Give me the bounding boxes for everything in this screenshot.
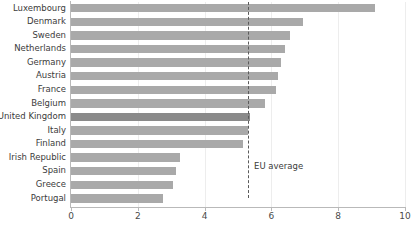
bar-finland	[71, 140, 243, 148]
category-label-denmark: Denmark	[0, 15, 66, 29]
eu-average-label: EU average	[254, 161, 303, 171]
bar-row: Greece	[0, 178, 420, 192]
x-tick-label-6: 6	[269, 211, 275, 222]
category-label-netherlands: Netherlands	[0, 42, 66, 56]
category-label-spain: Spain	[0, 164, 66, 178]
bar-row: France	[0, 83, 420, 97]
x-tick-label-4: 4	[202, 211, 208, 222]
bar-row: Irish Republic	[0, 151, 420, 165]
x-tick-label-0: 0	[68, 211, 74, 222]
eu-average-line	[248, 2, 249, 198]
bar-sweden	[71, 31, 290, 39]
bar-row: Finland	[0, 137, 420, 151]
bar-chart: 0246810 LuxembourgDenmarkSwedenNetherlan…	[0, 0, 420, 236]
category-label-belgium: Belgium	[0, 97, 66, 111]
bar-luxembourg	[71, 4, 375, 12]
bar-france	[71, 86, 276, 94]
category-label-irish-republic: Irish Republic	[0, 151, 66, 165]
bar-row: Sweden	[0, 29, 420, 43]
category-label-austria: Austria	[0, 69, 66, 83]
category-label-greece: Greece	[0, 178, 66, 192]
x-tick-label-8: 8	[335, 211, 341, 222]
category-label-germany: Germany	[0, 56, 66, 70]
bar-row: Spain	[0, 164, 420, 178]
bar-row: United Kingdom	[0, 110, 420, 124]
category-label-italy: Italy	[0, 124, 66, 138]
bar-row: Germany	[0, 56, 420, 70]
bar-irish-republic	[71, 153, 180, 161]
bar-row: Luxembourg	[0, 2, 420, 16]
bar-row: Netherlands	[0, 42, 420, 56]
bar-belgium	[71, 99, 265, 107]
bar-row: Italy	[0, 124, 420, 138]
bar-germany	[71, 58, 281, 66]
bar-united-kingdom	[71, 113, 250, 121]
bar-spain	[71, 167, 176, 175]
category-label-france: France	[0, 83, 66, 97]
x-tick-label-2: 2	[135, 211, 141, 222]
category-label-portugal: Portugal	[0, 192, 66, 206]
bar-austria	[71, 72, 278, 80]
x-tick-label-10: 10	[399, 211, 410, 222]
bar-netherlands	[71, 45, 285, 53]
bar-denmark	[71, 18, 303, 26]
category-label-united-kingdom: United Kingdom	[0, 110, 66, 124]
x-axis-line	[70, 207, 406, 208]
category-label-sweden: Sweden	[0, 29, 66, 43]
category-label-finland: Finland	[0, 137, 66, 151]
bar-portugal	[71, 194, 163, 202]
category-label-luxembourg: Luxembourg	[0, 2, 66, 16]
bar-row: Denmark	[0, 15, 420, 29]
bar-row: Austria	[0, 69, 420, 83]
bar-row: Portugal	[0, 192, 420, 206]
bar-italy	[71, 126, 248, 134]
bar-greece	[71, 181, 173, 189]
bar-row: Belgium	[0, 97, 420, 111]
